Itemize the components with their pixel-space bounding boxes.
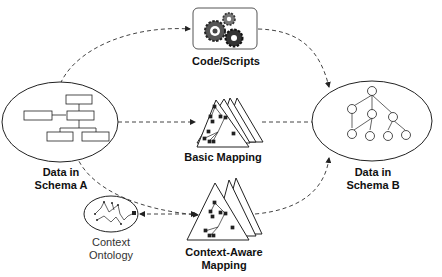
context-aware-mapping-label-line2: Mapping (174, 259, 274, 272)
context-ontology-label: Context Ontology (76, 236, 146, 262)
edge-schema-a-to-code (58, 29, 190, 90)
context-aware-mapping-node (187, 178, 262, 240)
context-ontology-node (84, 196, 138, 232)
context-ontology-label-line2: Ontology (76, 249, 146, 262)
schema-a-label-line2: Schema A (20, 179, 102, 192)
edge-code-to-schema-b (258, 29, 329, 87)
schema-b-node (312, 81, 432, 161)
schema-b-label-line1: Data in (332, 166, 414, 179)
context-ontology-label-line1: Context (76, 236, 146, 249)
schema-b-label: Data in Schema B (332, 166, 414, 192)
basic-mapping-label: Basic Mapping (178, 151, 268, 164)
schema-b-label-line2: Schema B (332, 179, 414, 192)
context-aware-mapping-label: Context-Aware Mapping (174, 246, 274, 272)
context-aware-mapping-label-line1: Context-Aware (174, 246, 274, 259)
code-scripts-node (193, 8, 257, 49)
schema-a-label: Data in Schema A (20, 166, 102, 192)
schema-a-node (2, 82, 118, 162)
basic-mapping-node (197, 98, 263, 147)
diagram-canvas (0, 0, 442, 277)
schema-a-label-line1: Data in (20, 166, 102, 179)
code-scripts-label: Code/Scripts (185, 55, 267, 68)
edge-context-mapping-to-schema-b (255, 158, 329, 214)
